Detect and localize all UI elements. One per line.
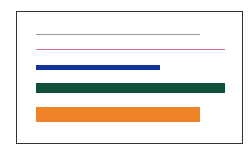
orange-bar <box>36 107 200 122</box>
figure-frame <box>16 11 243 144</box>
blue-bar <box>36 65 160 70</box>
green-bar <box>36 83 225 93</box>
pink-line <box>36 49 225 50</box>
gray-line <box>36 34 200 35</box>
